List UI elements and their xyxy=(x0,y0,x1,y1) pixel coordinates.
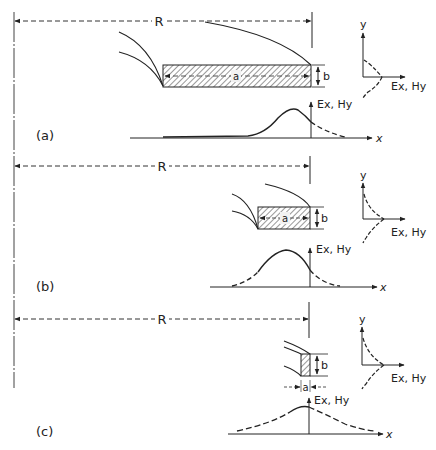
panel-c: R b a y Ex, Hy x Ex, Hy (c) xyxy=(15,302,427,441)
width-label-b: a xyxy=(282,213,288,224)
width-label-a: a xyxy=(233,71,239,82)
panel-b: R a b y Ex, Hy x Ex, Hy (b) xyxy=(15,156,427,294)
transverse-field-label-a: Ex, Hy xyxy=(391,80,427,93)
panel-label-c: (c) xyxy=(36,424,53,439)
height-label-a: b xyxy=(323,70,330,83)
radius-label-c: R xyxy=(157,312,166,327)
field-label-c: Ex, Hy xyxy=(314,394,350,407)
transverse-field-label-c: Ex, Hy xyxy=(391,372,427,385)
x-axis-label-b: x xyxy=(379,281,387,294)
width-label-c: a xyxy=(302,382,308,393)
field-label-a: Ex, Hy xyxy=(317,98,353,111)
y-axis-label-b: y xyxy=(360,169,367,182)
radius-label-b: R xyxy=(157,159,166,174)
waveguide-bend-diagram: R a b y Ex, Hy x Ex, Hy (a) xyxy=(0,0,436,450)
x-axis-label-a: x xyxy=(375,132,383,145)
transverse-field-label-b: Ex, Hy xyxy=(391,226,427,239)
height-label-b: b xyxy=(321,212,328,225)
field-label-b: Ex, Hy xyxy=(316,243,352,256)
radius-label-a: R xyxy=(154,14,163,29)
panel-label-a: (a) xyxy=(36,128,54,143)
panel-a: R a b y Ex, Hy x Ex, Hy (a) xyxy=(15,12,427,145)
waveguide-core-c xyxy=(301,354,310,376)
height-label-c: b xyxy=(321,359,328,372)
x-axis-label-c: x xyxy=(385,428,393,441)
panel-label-b: (b) xyxy=(36,279,54,294)
y-axis-label-c: y xyxy=(359,313,366,326)
y-axis-label-a: y xyxy=(360,18,367,31)
